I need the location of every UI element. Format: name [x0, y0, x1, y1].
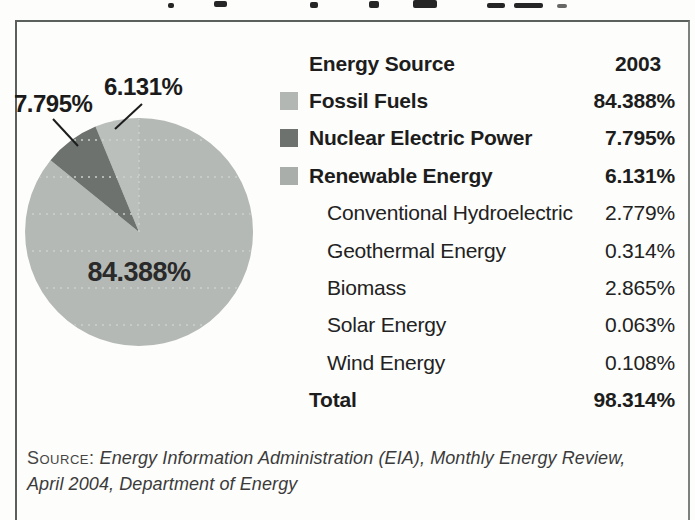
legend-swatch-fossil-icon [280, 92, 298, 110]
source-line1: Energy Information Administration (EIA),… [100, 448, 626, 468]
row-label: Nuclear Electric Power [309, 126, 532, 150]
row-value: 84.388% [593, 89, 675, 113]
row-value: 2.779% [605, 201, 675, 225]
energy-table: Energy Source 2003 Fossil Fuels 84.388% … [280, 45, 675, 419]
row-value: 6.131% [605, 164, 675, 188]
row-value: 98.314% [593, 388, 675, 412]
table-row-fossil-fuels: Fossil Fuels 84.388% [280, 82, 675, 119]
column-header-energy-source: Energy Source [309, 52, 455, 76]
source-label: Source: [27, 448, 94, 468]
leader-line-nuclear [53, 119, 78, 146]
legend-swatch-renewable-icon [280, 167, 298, 185]
source-note: Source: Energy Information Administratio… [27, 446, 672, 497]
column-header-year: 2003 [615, 52, 675, 76]
table-row-geothermal: Geothermal Energy 0.314% [280, 232, 675, 269]
table-row-renewable: Renewable Energy 6.131% [280, 157, 675, 194]
source-line2: April 2004, Department of Energy [27, 474, 297, 494]
row-label: Total [309, 388, 357, 412]
pie-label-nuclear: 7.795% [14, 90, 92, 118]
row-value: 2.865% [605, 276, 675, 300]
table-row-total: Total 98.314% [280, 382, 675, 419]
row-label: Renewable Energy [309, 164, 493, 188]
table-row-nuclear: Nuclear Electric Power 7.795% [280, 120, 675, 157]
pie-chart [14, 95, 264, 347]
row-label: Solar Energy [327, 313, 446, 337]
row-label: Biomass [327, 276, 406, 300]
row-value: 0.314% [605, 239, 675, 263]
table-row-biomass: Biomass 2.865% [280, 269, 675, 306]
row-label: Fossil Fuels [309, 89, 428, 113]
table-row-solar: Solar Energy 0.063% [280, 307, 675, 344]
row-label: Geothermal Energy [327, 239, 506, 263]
pie-label-renewable: 6.131% [104, 73, 182, 101]
row-label: Conventional Hydroelectric [327, 201, 573, 225]
row-value: 0.063% [605, 313, 675, 337]
pie-label-fossil: 84.388% [83, 257, 195, 288]
row-value: 0.108% [605, 351, 675, 375]
legend-swatch-nuclear-icon [280, 129, 298, 147]
table-header-row: Energy Source 2003 [280, 45, 675, 82]
clipped-title-fragments [0, 0, 695, 12]
table-row-hydroelectric: Conventional Hydroelectric 2.779% [280, 195, 675, 232]
row-value: 7.795% [605, 126, 675, 150]
row-label: Wind Energy [327, 351, 445, 375]
table-row-wind: Wind Energy 0.108% [280, 344, 675, 381]
